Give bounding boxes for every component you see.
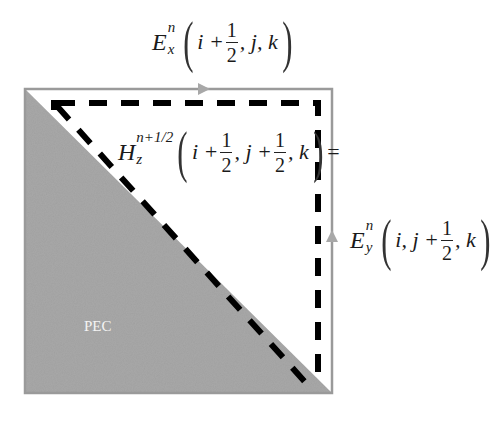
ey-superscript: n — [366, 217, 374, 234]
frac-bar — [220, 152, 232, 153]
pec-label: PEC — [84, 318, 112, 335]
hz-fraction-2: 12 — [274, 130, 286, 175]
ex-superscript: n — [168, 19, 176, 36]
left-paren: ( — [381, 212, 391, 268]
hz-fraction-1: 12 — [220, 130, 232, 175]
hz-args: i + 12 , j + 12 , k — [192, 130, 309, 175]
ey-symbol-text: E — [350, 227, 365, 253]
ey-subscript: y — [366, 239, 373, 256]
ex-fraction: 12 — [226, 20, 238, 65]
hz-arg-suffix: , k — [288, 139, 309, 165]
ex-arrow-icon — [198, 83, 210, 95]
frac-den: 2 — [221, 155, 231, 175]
ex-args: i + 12 , j, k — [197, 20, 277, 65]
hz-arg-prefix: i + — [192, 139, 218, 165]
right-paren: ) — [313, 124, 323, 180]
frac-num: 1 — [227, 20, 237, 40]
hz-symbol-text: H — [118, 139, 135, 165]
frac-bar — [226, 42, 238, 43]
hz-arg-mid: , j + — [234, 139, 271, 165]
frac-bar — [441, 240, 453, 241]
frac-num: 1 — [275, 130, 285, 150]
left-paren: ( — [178, 124, 188, 180]
ey-arrow-icon — [326, 230, 338, 242]
ex-label: Enx ( i + 12 , j, k ) — [152, 14, 296, 70]
frac-den: 2 — [227, 45, 237, 65]
equals-sign: = — [327, 139, 339, 165]
ey-symbol: Eny — [350, 227, 365, 254]
right-paren: ) — [282, 14, 292, 70]
ex-symbol: Enx — [152, 29, 167, 56]
ey-arg-prefix: i, j + — [395, 227, 439, 253]
right-paren: ) — [480, 212, 490, 268]
ey-arg-suffix: , k — [455, 227, 476, 253]
ex-subscript: x — [168, 41, 175, 58]
hz-subscript: z — [136, 151, 142, 168]
frac-num: 1 — [221, 130, 231, 150]
ey-label: Eny ( i, j + 12 , k ) — [350, 212, 494, 268]
ex-arg-suffix: , j, k — [240, 29, 278, 55]
hz-superscript: n+1/2 — [136, 129, 173, 146]
ey-args: i, j + 12 , k — [395, 218, 475, 263]
ex-arg-prefix: i + — [197, 29, 223, 55]
frac-bar — [274, 152, 286, 153]
hz-symbol: Hn+1/2z — [118, 139, 135, 166]
ey-fraction: 12 — [441, 218, 453, 263]
left-paren: ( — [183, 14, 193, 70]
hz-label: Hn+1/2z ( i + 12 , j + 12 , k ) = — [118, 124, 340, 180]
frac-den: 2 — [442, 243, 452, 263]
ex-symbol-text: E — [152, 29, 167, 55]
frac-den: 2 — [275, 155, 285, 175]
frac-num: 1 — [442, 218, 452, 238]
